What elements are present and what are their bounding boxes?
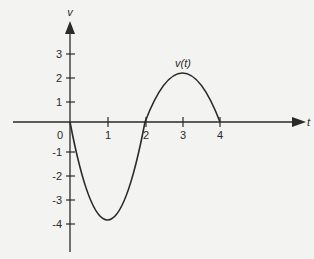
y-tick-label-3: 3 — [56, 48, 62, 60]
x-tick-label-3: 3 — [180, 129, 186, 141]
x-axis-arrow-icon — [292, 117, 306, 127]
curve-label: v(t) — [175, 57, 191, 69]
y-axis-label: v — [67, 6, 74, 18]
velocity-curve — [70, 73, 220, 220]
y-tick-label-neg4: -4 — [52, 218, 62, 230]
origin-label: 0 — [57, 129, 63, 141]
x-tick-label-1: 1 — [105, 129, 111, 141]
y-tick-label-1: 1 — [56, 96, 62, 108]
velocity-chart: 1 2 3 4 0 3 2 1 -1 -2 -3 -4 v t v(t) — [0, 0, 314, 259]
y-axis-arrow-icon — [65, 21, 75, 34]
y-tick-label-2: 2 — [56, 72, 62, 84]
y-tick-label-neg2: -2 — [52, 170, 62, 182]
x-axis-label: t — [307, 116, 311, 128]
x-tick-label-4: 4 — [217, 129, 223, 141]
y-tick-label-neg1: -1 — [52, 146, 62, 158]
y-tick-label-neg3: -3 — [52, 194, 62, 206]
